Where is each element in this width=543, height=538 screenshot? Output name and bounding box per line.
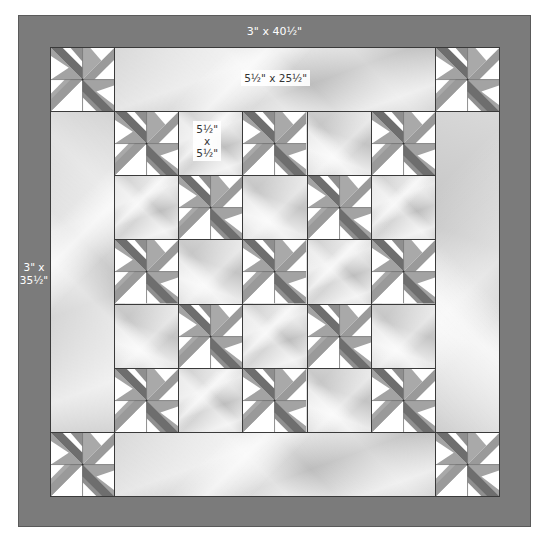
square-size-label: 5½"x5½" — [193, 121, 221, 161]
star-block — [50, 432, 115, 497]
square-size-label-line: 5½" — [196, 123, 218, 135]
star-block — [371, 111, 436, 176]
star-block-icon — [179, 176, 242, 239]
bottom-panel — [114, 432, 436, 497]
star-block-icon — [179, 305, 242, 368]
star-block — [371, 239, 436, 304]
plain-square: 5½"x5½" — [178, 111, 243, 176]
side-border-label-line1: 3" x — [18, 261, 50, 274]
star-block — [435, 432, 500, 497]
plain-square — [178, 368, 243, 433]
star-block-icon — [243, 240, 306, 303]
side-border-label-line2: 35½" — [18, 274, 50, 287]
star-block — [242, 239, 307, 304]
star-block — [307, 304, 372, 369]
plain-square — [307, 111, 372, 176]
star-block-icon — [115, 112, 178, 175]
star-block — [114, 111, 179, 176]
star-block-icon — [372, 240, 435, 303]
star-block-icon — [436, 48, 499, 111]
square-size-label-line: x — [196, 135, 218, 147]
side-border-label: 3" x 35½" — [18, 261, 50, 287]
star-block-icon — [115, 369, 178, 432]
plain-square — [371, 175, 436, 240]
star-block-icon — [372, 369, 435, 432]
right-panel — [435, 111, 500, 433]
star-block — [114, 368, 179, 433]
plain-square — [242, 175, 307, 240]
star-block — [178, 304, 243, 369]
star-block — [50, 47, 115, 112]
plain-square — [242, 304, 307, 369]
square-size-label-line: 5½" — [196, 147, 218, 159]
plain-square — [307, 239, 372, 304]
left-panel — [50, 111, 115, 433]
plain-square — [371, 304, 436, 369]
plain-square — [307, 368, 372, 433]
star-block-icon — [308, 305, 371, 368]
star-block-icon — [436, 433, 499, 496]
star-block-icon — [51, 433, 114, 496]
panel-size-label: 5½" x 25½" — [241, 70, 310, 86]
star-block — [307, 175, 372, 240]
top-border-label: 3" x 40½" — [18, 25, 531, 38]
quilt-center: 5½" x 25½" — [50, 47, 499, 496]
star-block — [371, 368, 436, 433]
star-block — [435, 47, 500, 112]
star-block-icon — [115, 240, 178, 303]
star-block-icon — [51, 48, 114, 111]
star-block — [242, 368, 307, 433]
top-panel: 5½" x 25½" — [114, 47, 436, 112]
star-block-icon — [372, 112, 435, 175]
star-block — [178, 175, 243, 240]
star-block-icon — [308, 176, 371, 239]
plain-square — [114, 304, 179, 369]
star-block — [242, 111, 307, 176]
star-block-icon — [243, 112, 306, 175]
plain-square — [114, 175, 179, 240]
plain-square — [178, 239, 243, 304]
quilt-diagram: 3" x 40½" 3" x 35½" 5½" x 25½" — [18, 15, 531, 527]
star-block — [114, 239, 179, 304]
star-block-icon — [243, 369, 306, 432]
